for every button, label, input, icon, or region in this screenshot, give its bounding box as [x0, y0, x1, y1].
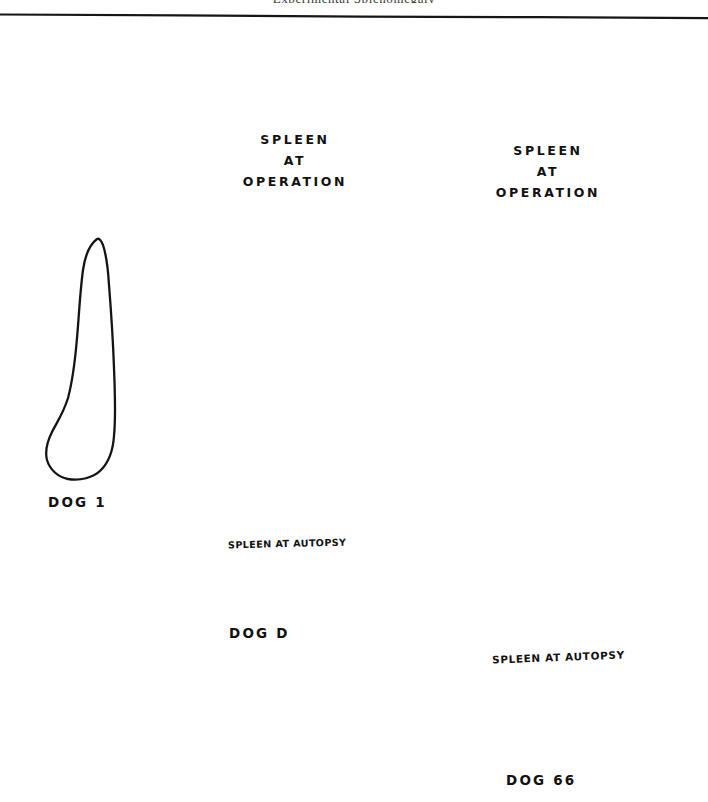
dog-66-operation-caption-line-2: AT — [508, 161, 588, 182]
specimen-label-dog-1: DOG 1 — [48, 494, 107, 510]
dog-66-operation-caption-line-1: SPLEEN — [508, 140, 588, 161]
specimen-dog-1 — [46, 239, 115, 480]
specimen-label-dog-d: DOG D — [229, 625, 290, 641]
specimen-label-dog-66: DOG 66 — [506, 772, 576, 788]
dog-d-operation-caption-line-1: SPLEEN — [255, 129, 335, 150]
dog-d-operation-caption-line-3: OPERATION — [241, 171, 349, 192]
header-rule — [0, 15, 708, 19]
figure-root: Experimental Splenomegaly — [0, 0, 708, 802]
spleen-outline-drawing — [0, 0, 708, 802]
dog-d-operation-caption-line-2: AT — [255, 150, 335, 171]
dog-66-operation-caption-line-3: OPERATION — [494, 182, 602, 203]
dog-1-autopsy-outline — [46, 239, 115, 480]
